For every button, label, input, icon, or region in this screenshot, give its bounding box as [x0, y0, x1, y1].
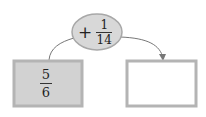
- fraction-operation-diagram: + 1 14 5 6: [0, 0, 206, 117]
- start-numerator: 5: [42, 68, 50, 81]
- operator-sign: +: [78, 22, 92, 42]
- start-denominator: 6: [42, 86, 50, 99]
- operation-numerator: 1: [100, 19, 108, 31]
- fraction-bar: [40, 83, 52, 84]
- start-fraction: 5 6: [40, 68, 52, 99]
- result-answer-slot[interactable]: [130, 64, 193, 103]
- operation-denominator: 14: [97, 34, 112, 46]
- connector-line: [49, 38, 74, 60]
- arrow-line: [120, 37, 163, 58]
- operation-expression: + 1 14: [78, 20, 112, 44]
